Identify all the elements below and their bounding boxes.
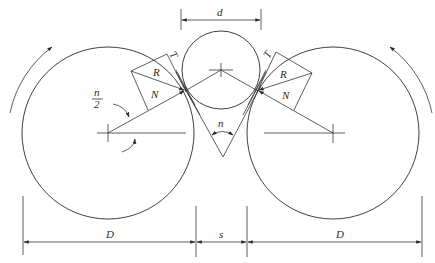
- label-s: s: [219, 228, 223, 240]
- label-left-N: N: [150, 88, 159, 100]
- label-right-N: N: [281, 89, 290, 101]
- label-left-R: R: [152, 66, 160, 78]
- dimension-bottom: D s D: [23, 196, 422, 257]
- label-nip-angle: n: [218, 117, 224, 129]
- left-rotation-arrow-icon: [10, 47, 52, 113]
- label-half-angle-denominator: 2: [94, 98, 100, 110]
- label-right-T: T: [260, 48, 274, 60]
- right-rotation-arrow-icon: [390, 47, 432, 113]
- dimension-d: d: [181, 6, 261, 30]
- label-D-left: D: [105, 228, 114, 240]
- diagram-canvas: T R N T R N n n 2 d D s D: [0, 0, 435, 263]
- label-right-R: R: [279, 68, 287, 80]
- label-d: d: [217, 6, 223, 18]
- half-angle-arrow-upper-icon: [113, 104, 129, 117]
- particle: [182, 31, 260, 109]
- half-angle-arrow-lower-icon: [122, 139, 135, 152]
- label-half-angle-numerator: n: [94, 86, 100, 98]
- label-D-right: D: [335, 228, 344, 240]
